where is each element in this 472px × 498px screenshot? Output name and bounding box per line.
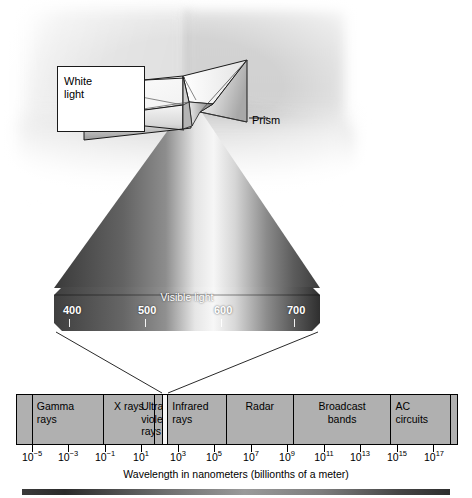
em-spectrum-band: Gamma rays X rays Ultra- violet rays Inf… <box>16 394 458 445</box>
em-band-gamma-rays[interactable]: Gamma rays <box>33 395 104 444</box>
axis-label-10: 1015 <box>387 449 407 463</box>
axis-label-9-exp: 13 <box>362 449 370 458</box>
visible-tick-label-500: 500 <box>138 304 156 316</box>
axis-label-10-base: 10 <box>387 451 399 463</box>
axis-caption: Wavelength in nanometers (billionths of … <box>0 468 472 480</box>
axis-label-6-base: 10 <box>243 451 255 463</box>
axis-label-11-exp: 17 <box>436 449 444 458</box>
axis-label-4: 103 <box>170 449 186 463</box>
em-band-ac-circuits[interactable]: AC circuits <box>391 395 450 444</box>
em-band-radar[interactable]: Radar <box>227 395 294 444</box>
em-band-broadcast-bands-line2: bands <box>294 413 391 426</box>
em-band-infrared-rays-label: Infrared rays <box>172 400 224 425</box>
axis-label-1-exp: −3 <box>70 449 79 458</box>
axis-label-1: 10−3 <box>58 449 78 463</box>
em-band-ac-circuits-line1: AC <box>395 400 447 413</box>
em-band-right-pad <box>451 395 457 444</box>
axis-label-10-exp: 15 <box>399 449 407 458</box>
axis-label-0-exp: −5 <box>34 449 43 458</box>
axis-label-11: 1017 <box>424 449 444 463</box>
axis-label-6: 107 <box>243 449 259 463</box>
em-band-gamma-rays-line2: rays <box>37 413 101 426</box>
axis-label-1-base: 10 <box>58 451 70 463</box>
figure-canvas: White light Prism Visible light 400 500 … <box>0 0 472 498</box>
axis-label-7-base: 10 <box>279 451 291 463</box>
visible-tick-label-400: 400 <box>63 304 81 316</box>
axis-label-3-base: 10 <box>133 451 145 463</box>
em-band-infrared-rays-line2: rays <box>172 413 224 426</box>
white-light-label-line2: light <box>64 88 92 101</box>
em-band-left-pad <box>17 395 33 444</box>
axis-label-2-exp: −1 <box>107 449 116 458</box>
em-band-gamma-rays-label: Gamma rays <box>37 400 101 425</box>
em-band-ac-circuits-line2: circuits <box>395 413 447 426</box>
em-band-ultraviolet-rays[interactable]: Ultra- violet rays <box>155 395 162 444</box>
visible-light-bar-title: Visible light <box>54 291 320 303</box>
axis-label-11-base: 10 <box>424 451 436 463</box>
axis-label-8-base: 10 <box>314 451 326 463</box>
axis-label-4-exp: 3 <box>182 449 186 458</box>
white-light-callout: White light <box>57 66 145 132</box>
em-band-infrared-rays-line1: Infrared <box>172 400 224 413</box>
callout-connector-lines <box>0 325 472 397</box>
axis-label-9: 1013 <box>350 449 370 463</box>
axis-label-2-base: 10 <box>95 451 107 463</box>
axis-label-8-exp: 11 <box>326 449 334 458</box>
axis-label-5-exp: 5 <box>218 449 222 458</box>
axis-label-0: 10−5 <box>22 449 42 463</box>
axis-label-3-exp: 1 <box>145 449 149 458</box>
em-band-gamma-rays-line1: Gamma <box>37 400 101 413</box>
white-light-label-line1: White <box>64 75 92 88</box>
bottom-decorative-rule <box>22 489 450 495</box>
axis-label-5: 105 <box>206 449 222 463</box>
axis-label-5-base: 10 <box>206 451 218 463</box>
white-light-label: White light <box>64 75 92 101</box>
axis-label-0-base: 10 <box>22 451 34 463</box>
axis-label-6-exp: 7 <box>255 449 259 458</box>
em-band-infrared-rays[interactable]: Infrared rays <box>168 395 227 444</box>
axis-label-3: 101 <box>133 449 149 463</box>
em-band-broadcast-bands-label: Broadcast bands <box>294 400 391 425</box>
em-band-radar-label: Radar <box>227 400 293 413</box>
axis-label-2: 10−1 <box>95 449 115 463</box>
axis-label-7-exp: 9 <box>291 449 295 458</box>
visible-tick-label-700: 700 <box>287 304 305 316</box>
visible-tick-label-600: 600 <box>214 304 232 316</box>
em-band-broadcast-bands-line1: Broadcast <box>294 400 391 413</box>
axis-label-7: 109 <box>279 449 295 463</box>
em-band-broadcast-bands[interactable]: Broadcast bands <box>294 395 392 444</box>
em-band-ac-circuits-label: AC circuits <box>395 400 447 425</box>
axis-label-8: 1011 <box>314 449 333 463</box>
prism-label: Prism <box>252 114 280 126</box>
em-band-radar-line1: Radar <box>227 400 293 413</box>
axis-label-9-base: 10 <box>350 451 362 463</box>
axis-label-4-base: 10 <box>170 451 182 463</box>
